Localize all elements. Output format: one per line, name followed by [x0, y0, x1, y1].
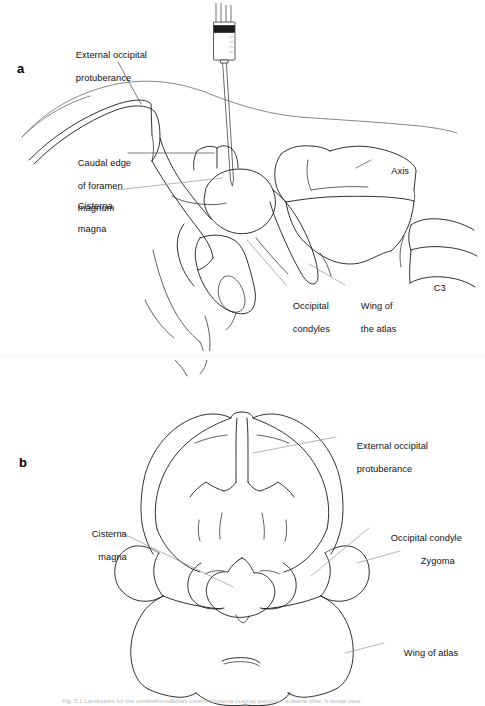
label-line-1: C3 — [434, 283, 446, 293]
zygomatic-arch-right — [321, 546, 369, 601]
label-line-1: External occipital — [76, 50, 147, 60]
label-line-1: Occipital condyle — [391, 533, 462, 543]
label-zygoma-b: Zygoma — [405, 545, 455, 579]
label-line-1: Occipital — [293, 301, 329, 311]
panel-b-letter: b — [19, 456, 27, 469]
occipital-bone — [152, 138, 226, 258]
label-line-1: Wing of atlas — [404, 648, 458, 658]
panel-b-dorsal-view: b — [0, 360, 485, 706]
atlas-central-arch — [206, 558, 275, 623]
label-line-1: External occipital — [357, 441, 428, 451]
label-cisterna-magna-a: Cisterna magna — [62, 190, 113, 246]
external-occipital-protuberance-crest — [224, 418, 260, 491]
label-line-1: Wing of — [361, 301, 393, 311]
label-line-2: condyles — [293, 324, 330, 334]
cranium-outline — [141, 412, 343, 554]
label-cisterna-magna-b: Cisterna magna — [76, 518, 127, 574]
label-line-2: protuberance — [76, 73, 131, 83]
label-occipital-condyles-a: Occipital condyles — [277, 290, 330, 346]
occipital-squama — [157, 513, 327, 572]
label-wing-of-the-atlas-a: Wing of the atlas — [345, 290, 396, 346]
panel-a-lateral-view: a — [0, 0, 485, 360]
label-external-occipital-protuberance-b: External occipital protuberance — [341, 430, 428, 486]
label-line-2: the atlas — [361, 324, 397, 334]
label-line-1: Caudal edge — [78, 158, 131, 168]
figure-page: a — [0, 0, 485, 706]
nuchal-crest-lines — [155, 418, 328, 529]
label-wing-of-atlas-b: Wing of atlas — [388, 637, 458, 671]
panel-a-leader-lines — [116, 62, 371, 286]
label-line-2: magna — [98, 552, 127, 562]
label-external-occipital-protuberance-a: External occipital protuberance — [60, 39, 147, 95]
label-axis-a: Axis — [376, 155, 409, 189]
stray-contour — [175, 360, 207, 376]
panel-a-letter: a — [17, 62, 25, 75]
foramen-magnum-region — [188, 563, 296, 609]
label-line-2: magna — [78, 224, 107, 234]
label-line-1: Cisterna — [92, 529, 127, 539]
atlas-body — [195, 235, 255, 314]
label-line-1: Axis — [391, 166, 409, 176]
label-line-1: Cisterna — [78, 201, 113, 211]
label-c3-a: C3 — [418, 272, 446, 306]
figure-caption: Fig. 5.1 Landmarks for the cerebellomedu… — [62, 697, 462, 705]
label-line-2: protuberance — [357, 464, 412, 474]
wing-of-atlas-mass — [131, 596, 354, 706]
scan-band — [0, 351, 485, 360]
label-line-1: Zygoma — [421, 556, 455, 566]
wing-of-atlas-spur — [256, 190, 318, 284]
